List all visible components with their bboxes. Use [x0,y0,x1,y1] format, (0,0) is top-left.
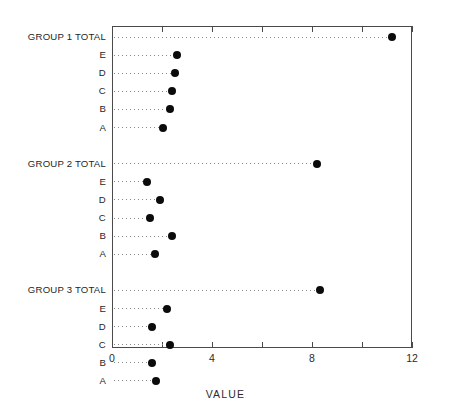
category-row: A [0,122,451,134]
data-point-marker [168,232,176,240]
category-row: E [0,49,451,61]
category-row: D [0,321,451,333]
data-point-marker [152,377,160,385]
data-point-marker [143,178,151,186]
category-row: C [0,85,451,97]
row-label: E [0,176,106,188]
category-row: D [0,194,451,206]
category-row: C [0,212,451,224]
leader-line [114,73,172,74]
category-row: E [0,303,451,315]
leader-line [114,55,174,56]
group-total-row: GROUP 1 TOTAL [0,31,451,43]
row-label: B [0,357,106,369]
leader-line [114,199,157,200]
data-point-marker [159,124,167,132]
leader-line [114,308,164,309]
category-row: B [0,230,451,242]
row-label: C [0,85,106,97]
data-point-marker [388,33,396,41]
data-point-marker [316,286,324,294]
row-label: GROUP 2 TOTAL [0,158,106,170]
row-label: D [0,67,106,79]
row-label: GROUP 3 TOTAL [0,284,106,296]
row-label: A [0,248,106,260]
leader-line [114,109,167,110]
row-label: D [0,321,106,333]
data-point-marker [151,250,159,258]
leader-line [114,290,317,291]
row-label: E [0,303,106,315]
leader-line [114,127,160,128]
data-point-marker [146,214,154,222]
data-point-marker [166,105,174,113]
data-point-marker [313,160,321,168]
leader-line [114,380,153,381]
category-row: A [0,375,451,387]
data-point-marker [168,87,176,95]
row-label: GROUP 1 TOTAL [0,31,106,43]
category-row: B [0,103,451,115]
leader-line [114,163,314,164]
leader-line [114,254,152,255]
category-row: C [0,339,451,351]
leader-line [114,344,167,345]
leader-line [114,326,149,327]
category-row: D [0,67,451,79]
data-point-marker [171,69,179,77]
leader-line [114,236,169,237]
x-axis-title: VALUE [0,388,451,400]
row-label: B [0,103,106,115]
data-point-marker [148,359,156,367]
row-label: C [0,212,106,224]
data-point-marker [148,323,156,331]
row-label: C [0,339,106,351]
data-point-marker [173,51,181,59]
group-total-row: GROUP 3 TOTAL [0,284,451,296]
category-row: B [0,357,451,369]
leader-line [114,91,169,92]
chart-top-title [0,0,451,3]
row-label: B [0,230,106,242]
data-point-marker [163,305,171,313]
group-total-row: GROUP 2 TOTAL [0,158,451,170]
row-label: D [0,194,106,206]
leader-line [114,362,149,363]
leader-line [114,181,144,182]
leader-line [114,218,147,219]
data-point-marker [156,196,164,204]
chart-canvas: 04812 VALUE GROUP 1 TOTALEDCBAGROUP 2 TO… [0,0,451,419]
row-label: A [0,375,106,387]
leader-line [114,37,389,38]
row-label: A [0,122,106,134]
row-label: E [0,49,106,61]
data-point-marker [166,341,174,349]
category-row: A [0,248,451,260]
category-row: E [0,176,451,188]
